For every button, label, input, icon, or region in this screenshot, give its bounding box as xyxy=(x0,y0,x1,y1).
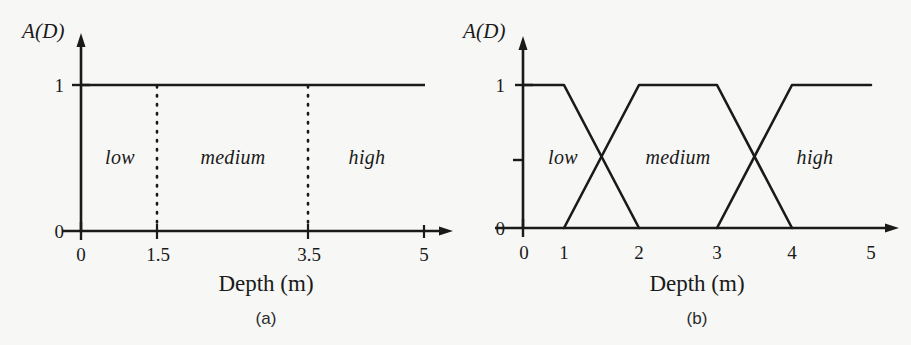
x-tick-label-35-a: 3.5 xyxy=(297,245,321,264)
set-label-medium-b: medium xyxy=(645,147,710,167)
x-tick-label-5-a: 5 xyxy=(419,245,429,264)
panel-caption-b: (b) xyxy=(687,310,708,327)
y-tick-label-one-b: 1 xyxy=(481,76,505,95)
x-axis-a xyxy=(62,227,453,236)
series-high-b xyxy=(717,85,871,228)
panel-a: A(D) 1 0 0 1.5 3.5 5 low medium high Dep… xyxy=(0,0,455,345)
panel-caption-a: (a) xyxy=(256,310,277,327)
x-axis-b xyxy=(495,224,899,233)
y-tick-label-one-a: 1 xyxy=(40,76,64,95)
x-tick-label-4-b: 4 xyxy=(787,243,797,262)
y-axis-a xyxy=(77,33,86,231)
x-tick-label-15-a: 1.5 xyxy=(146,245,170,264)
set-label-low-a: low xyxy=(105,147,135,167)
x-axis-label-a: Depth (m) xyxy=(218,272,313,295)
x-tick-label-0-a: 0 xyxy=(76,245,86,264)
x-tick-label-0-b: 0 xyxy=(519,243,529,262)
set-label-high-b: high xyxy=(797,147,834,167)
panel-b: A(D) 1 0 0 1 2 3 4 5 low medium high Dep… xyxy=(455,0,911,345)
x-axis-label-b: Depth (m) xyxy=(649,272,744,295)
y-axis-b xyxy=(519,36,528,228)
x-tick-label-5-b: 5 xyxy=(866,243,876,262)
x-tick-label-3-b: 3 xyxy=(712,243,722,262)
x-tick-label-1-b: 1 xyxy=(559,243,569,262)
y-axis-label-b: A(D) xyxy=(463,21,506,42)
fuzzy-membership-figure: A(D) 1 0 0 1.5 3.5 5 low medium high Dep… xyxy=(0,0,911,345)
y-tick-label-zero-b: 0 xyxy=(481,219,505,238)
set-label-high-a: high xyxy=(349,147,386,167)
set-label-medium-a: medium xyxy=(200,147,265,167)
series-low-b xyxy=(523,85,639,228)
y-tick-label-zero-a: 0 xyxy=(40,222,64,241)
set-label-low-b: low xyxy=(548,147,578,167)
x-tick-label-2-b: 2 xyxy=(634,243,644,262)
y-axis-label-a: A(D) xyxy=(22,21,65,42)
